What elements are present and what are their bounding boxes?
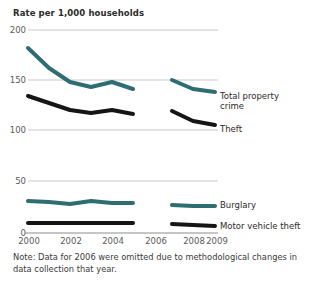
y-tick-label-50: 50 <box>0 176 26 186</box>
legend-label-theft: Theft <box>220 124 242 134</box>
series-motor-vehicle-theft <box>28 223 215 226</box>
series-line-total-property-crime-segment-b <box>172 80 215 92</box>
series-line-theft-segment-b <box>172 111 215 125</box>
series-burglary <box>28 201 215 206</box>
x-tick-label-2009: 2009 <box>202 236 232 246</box>
series-line-burglary-segment-a <box>28 201 133 204</box>
y-tick-label-200: 200 <box>0 25 26 35</box>
series-total-property-crime <box>28 48 215 92</box>
y-tick-label-100: 100 <box>0 125 26 135</box>
series-theft <box>28 96 215 125</box>
legend-label-motor-vehicle-theft: Motor vehicle theft <box>220 221 300 231</box>
legend-label-burglary: Burglary <box>220 200 256 210</box>
series-line-theft-segment-a <box>28 96 133 114</box>
x-tick-label-2000: 2000 <box>14 236 44 246</box>
series-line-burglary-segment-b <box>172 205 215 206</box>
legend-label-total-property-crime: Total property crime <box>220 91 279 111</box>
y-tick-label-150: 150 <box>0 75 26 85</box>
x-tick-label-2002: 2002 <box>56 236 86 246</box>
chart-note: Note: Data for 2006 were omitted due to … <box>13 252 303 275</box>
series-line-total-property-crime-segment-a <box>28 48 133 89</box>
x-tick-label-2006: 2006 <box>141 236 171 246</box>
chart-figure: Rate per 1,000 households <box>0 0 309 281</box>
x-tick-label-2004: 2004 <box>98 236 128 246</box>
series-line-motor-vehicle-theft-segment-b <box>172 224 215 226</box>
